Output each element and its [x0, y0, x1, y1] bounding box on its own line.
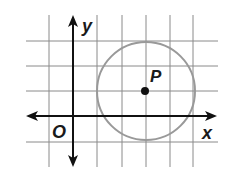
grid	[26, 15, 218, 167]
origin-label: O	[52, 122, 66, 142]
x-axis-label: x	[201, 123, 213, 143]
y-axis-label: y	[81, 16, 93, 36]
center-label: P	[150, 67, 162, 86]
center-point-p	[141, 87, 149, 95]
coordinate-plane: y x O P	[0, 0, 236, 178]
